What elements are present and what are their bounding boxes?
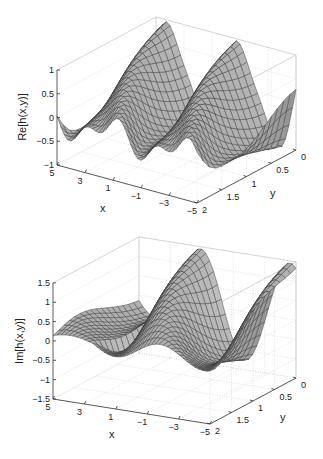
im-surface-mesh bbox=[53, 249, 296, 371]
z-tick-label: 1 bbox=[45, 297, 50, 307]
z-tick-label: −0.5 bbox=[32, 355, 50, 365]
im-x-axis-label: x bbox=[109, 428, 115, 440]
z-tick-label: 0.5 bbox=[37, 317, 50, 327]
y-tick-label: 0 bbox=[301, 380, 306, 390]
y-tick-label: 2 bbox=[215, 426, 220, 436]
z-tick-label: −1 bbox=[40, 375, 50, 385]
x-tick-label: −1 bbox=[137, 417, 147, 427]
x-tick-label: 5 bbox=[45, 402, 50, 412]
x-tick-label: −3 bbox=[168, 422, 178, 432]
z-tick-label: 1.5 bbox=[37, 278, 50, 288]
im-z-axis-label: Im[h(x,y)] bbox=[13, 318, 25, 364]
y-tick-label: 0.5 bbox=[280, 392, 293, 402]
x-tick-label: 3 bbox=[77, 407, 82, 417]
im-y-axis-label: y bbox=[280, 411, 286, 423]
im-surface-plot: 1.510.50−0.5−1−1.5531−1−3−500.511.52 Im[… bbox=[0, 0, 323, 459]
x-tick-label: 1 bbox=[108, 412, 113, 422]
x-tick-label: −5 bbox=[200, 427, 210, 437]
y-tick-label: 1 bbox=[258, 403, 263, 413]
y-tick-label: 1.5 bbox=[237, 415, 250, 425]
z-tick-label: 0 bbox=[45, 336, 50, 346]
